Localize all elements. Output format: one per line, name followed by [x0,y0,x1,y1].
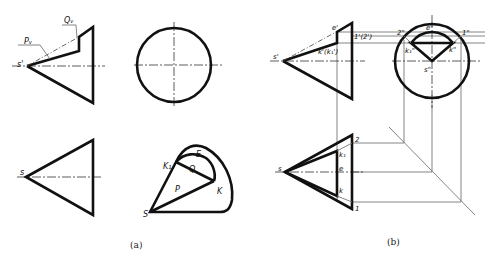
label-big-s: S [143,210,148,219]
label-s-prime: s' [17,60,23,69]
label-k1: k₁ [339,151,346,159]
label-12-prime: 1'(2') [354,33,372,41]
cone-outline-notched [27,27,93,103]
cone-triangle [26,140,93,215]
qv-leader [62,25,77,38]
figure-a: Pᵥ Qᵥ s' s S K₁ E Q P K ( [12,16,232,250]
top-view-a: s [17,140,102,215]
label-k-prime: k'(k₁') [318,48,338,56]
label-s-prime: s' [273,53,279,61]
label-2: 2 [355,136,360,144]
label-k1-dprime: k₁" [405,47,415,55]
front-view-b: e' 1'(2') s' k'(k₁') [270,23,372,99]
pictorial-view-a: S K₁ E Q P K [143,146,232,219]
label-qv: Qᵥ [64,16,74,25]
label-q: Q [189,165,195,174]
label-1-dprime: 1" [462,29,470,37]
caption-a: (a) [130,240,142,250]
label-s-dprime: s" [424,66,431,74]
label-e: e [339,165,343,173]
side-view-b: 2" e" 1" k₁" k" s" [392,15,480,108]
pv-leader [18,45,50,59]
technical-drawing: Pᵥ Qᵥ s' s S K₁ E Q P K ( [0,0,489,260]
figure-b: e' 1'(2') s' k'(k₁') 2" e" 1" k₁" k" s" [270,15,485,247]
label-e-prime: e' [332,24,338,32]
tie-k1-2 [337,143,352,151]
label-1: 1 [355,205,359,213]
side-view-a [134,22,222,108]
plane-q-trace [27,38,77,66]
label-k: K [217,187,223,196]
front-view-a: Pᵥ Qᵥ s' [12,16,105,103]
tie-2 [404,36,411,43]
top-view-b: s 2 k₁ e k 1 [275,135,365,213]
label-s: s [20,168,24,177]
label-pv: Pᵥ [24,37,33,46]
label-k: k [339,187,344,195]
label-p: P [175,185,180,194]
label-2-dprime: 2" [397,29,405,37]
tie-1 [453,36,461,43]
line-s-k [150,181,214,212]
label-e-dprime: e" [426,24,434,32]
projection-lines [336,32,485,215]
label-k-dprime: k" [449,46,456,54]
label-k1: K₁ [163,162,171,171]
label-s: s [278,165,282,173]
caption-b: (b) [387,237,400,247]
